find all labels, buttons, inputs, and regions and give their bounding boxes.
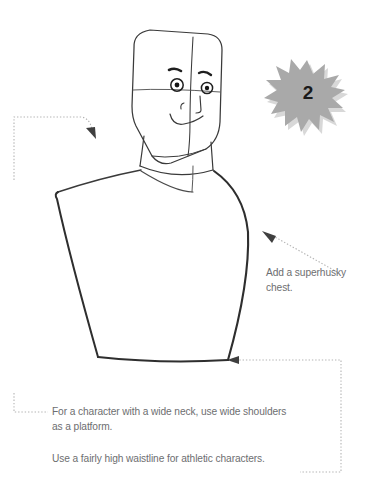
right-eyebrow	[199, 72, 211, 75]
left-pupil	[175, 83, 180, 88]
neck-left	[140, 136, 144, 166]
torso-centerline	[192, 166, 193, 192]
caption-shoulders: For a character with a wide neck, use wi…	[52, 405, 342, 434]
right-chest-curve	[214, 171, 248, 360]
neck-base	[140, 166, 213, 175]
mouth	[170, 114, 203, 124]
nose	[196, 96, 201, 113]
caption-waistline: Use a fairly high waistline for athletic…	[52, 452, 342, 467]
nose-left-hint	[181, 103, 184, 109]
waistline	[98, 357, 228, 361]
left-eyebrow	[169, 69, 181, 71]
neck-arrowhead	[86, 127, 96, 139]
jaw-line	[152, 149, 206, 157]
neck-right	[211, 142, 213, 170]
tutorial-page: 2 Add a superhusky chest. For a characte…	[0, 0, 372, 493]
chest-arrowhead	[262, 231, 276, 243]
step-badge	[264, 59, 348, 136]
head-outline	[132, 30, 222, 164]
caption-chest: Add a superhusky chest.	[266, 266, 370, 295]
badge-star	[264, 59, 345, 132]
head-right-plane	[188, 37, 193, 156]
figure-sketch	[56, 30, 248, 361]
neck-leader-line	[14, 117, 92, 180]
left-shoulder-edge	[56, 192, 98, 357]
right-pupil	[205, 86, 209, 90]
shoulders-leader-line	[14, 393, 48, 412]
left-shoulder-slope	[58, 170, 141, 192]
